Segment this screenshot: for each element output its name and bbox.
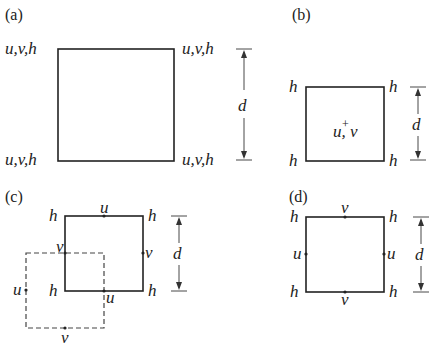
panel-d-right-mid: u xyxy=(387,244,396,263)
panel-c: (c) h h h h u v v u u v d xyxy=(5,188,187,347)
panel-d-bottom-mid: v xyxy=(341,290,349,309)
panel-d-label: (d) xyxy=(289,188,308,206)
panel-d-dimension: d xyxy=(413,217,429,292)
panel-c-bottom-mid: u xyxy=(106,288,115,307)
panel-c-corner-tl: h xyxy=(49,206,58,225)
panel-d-corner-br: h xyxy=(389,282,398,301)
panel-d-corner-bl: h xyxy=(290,282,299,301)
panel-c-corner-tr: h xyxy=(148,206,157,225)
panel-b-dimension-label: d xyxy=(412,115,421,134)
panel-d-top-mid: v xyxy=(341,198,349,217)
panel-b-corner-tl: h xyxy=(289,77,298,96)
panel-d-dimension-label: d xyxy=(415,245,424,264)
panel-c-label: (c) xyxy=(5,188,23,206)
panel-b-center-label: u, v xyxy=(333,122,358,141)
panel-c-corner-br: h xyxy=(148,281,157,300)
panel-b-dimension: d xyxy=(410,87,426,160)
panel-c-dimension-label: d xyxy=(173,244,182,263)
panel-d-cell xyxy=(306,217,384,292)
panel-a-cell xyxy=(58,49,174,161)
panel-b-corner-bl: h xyxy=(289,151,298,170)
panel-a-corner-tr: u,v,h xyxy=(182,39,214,58)
panel-a-dimension: d xyxy=(236,49,252,160)
panel-c-right-mid: v xyxy=(145,243,153,262)
panel-d-left-mid: u xyxy=(293,244,302,263)
panel-a-dimension-label: d xyxy=(238,96,247,115)
panel-d-corner-tr: h xyxy=(389,207,398,226)
panel-a-corner-tl: u,v,h xyxy=(5,39,37,58)
panel-c-dashed-bottom-mid: v xyxy=(61,328,69,347)
panel-a: (a) u,v,h u,v,h u,v,h u,v,h d xyxy=(5,6,252,169)
grid-arrangement-diagram: (a) u,v,h u,v,h u,v,h u,v,h d (b) h h h … xyxy=(0,0,437,349)
panel-d: (d) h h h h v v u u d xyxy=(289,188,429,309)
panel-b: (b) h h h h + u, v d xyxy=(289,6,426,170)
panel-b-corner-br: h xyxy=(389,151,398,170)
panel-a-label: (a) xyxy=(5,6,23,24)
panel-c-dimension: d xyxy=(171,216,187,291)
panel-c-dashed-left-mid: u xyxy=(13,280,22,299)
panel-b-label: (b) xyxy=(292,6,311,24)
panel-c-left-mid: v xyxy=(56,237,64,256)
panel-d-corner-tl: h xyxy=(290,207,299,226)
panel-c-top-mid: u xyxy=(100,198,109,217)
panel-b-corner-tr: h xyxy=(389,77,398,96)
panel-a-corner-br: u,v,h xyxy=(182,150,214,169)
panel-a-corner-bl: u,v,h xyxy=(5,150,37,169)
panel-c-corner-bl: h xyxy=(49,281,58,300)
